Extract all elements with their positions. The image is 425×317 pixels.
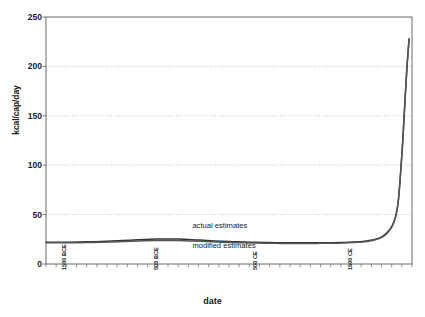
x-tick-label-1: 500 BCE [153, 247, 159, 270]
x-axis-title: date [0, 296, 425, 306]
series-line-modified-estimates [46, 39, 409, 243]
x-tick-label-3: 1500 CE [347, 248, 353, 270]
annotation-actual-estimates: actual estimates [192, 221, 247, 230]
x-tick-label-0: 1500 BCE [61, 244, 67, 270]
x-tick-label-2: 500 CE [252, 251, 258, 270]
series-line-actual-estimates [46, 39, 409, 243]
annotation-modified-estimates: modified estimates [192, 241, 255, 250]
chart-container: kcal/cap/day 250 200 150 100 50 0 1500 B… [0, 0, 425, 317]
